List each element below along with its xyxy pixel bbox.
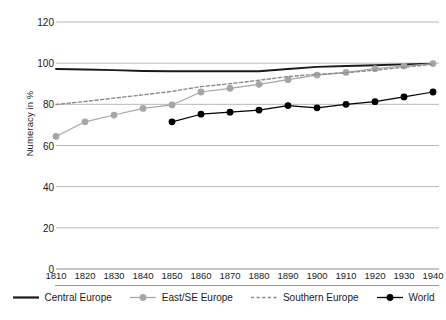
data-point-marker xyxy=(53,133,60,140)
legend-label: Central Europe xyxy=(45,292,112,303)
chart-container: Numeracy in % 020406080100120 1810182018… xyxy=(0,0,446,320)
data-point-marker xyxy=(343,101,350,108)
x-tick-label: 1900 xyxy=(306,270,327,281)
legend-item[interactable]: East/SE Europe xyxy=(129,292,233,303)
x-tick-label: 1920 xyxy=(364,270,385,281)
x-tick-label: 1820 xyxy=(74,270,95,281)
dashed-line-swatch xyxy=(250,292,278,303)
x-tick-label: 1910 xyxy=(335,270,356,281)
x-tick-label: 1860 xyxy=(190,270,211,281)
data-point-marker xyxy=(198,111,205,118)
data-point-marker xyxy=(227,109,234,116)
data-point-marker xyxy=(430,60,437,67)
x-tick-label: 1840 xyxy=(132,270,153,281)
data-point-marker xyxy=(401,94,408,101)
data-point-marker xyxy=(227,85,234,92)
legend-item[interactable]: World xyxy=(376,292,435,303)
x-tick-label: 1850 xyxy=(161,270,182,281)
data-point-marker xyxy=(198,89,205,96)
chart-legend: Central EuropeEast/SE EuropeSouthern Eur… xyxy=(0,292,446,303)
legend-item[interactable]: Central Europe xyxy=(12,292,112,303)
data-point-marker xyxy=(256,81,263,88)
x-tick-label: 1830 xyxy=(103,270,124,281)
legend-label: World xyxy=(409,292,435,303)
x-tick-label: 1890 xyxy=(277,270,298,281)
x-tick-label: 1940 xyxy=(422,270,443,281)
legend-label: East/SE Europe xyxy=(162,292,233,303)
line-marker-swatch xyxy=(376,292,404,303)
data-point-marker xyxy=(372,98,379,105)
data-point-marker xyxy=(401,63,408,70)
data-point-marker xyxy=(372,65,379,72)
legend-item[interactable]: Southern Europe xyxy=(250,292,359,303)
data-point-marker xyxy=(169,118,176,125)
series-line xyxy=(172,92,433,122)
x-tick-label: 1880 xyxy=(248,270,269,281)
solid-line-swatch xyxy=(12,292,40,303)
legend-divider xyxy=(55,285,439,286)
line-marker-swatch xyxy=(129,292,157,303)
series-layer xyxy=(53,60,437,140)
data-point-marker xyxy=(111,112,118,119)
data-point-marker xyxy=(82,118,89,125)
data-point-marker xyxy=(140,105,147,112)
data-point-marker xyxy=(285,102,292,109)
x-tick-label: 1870 xyxy=(219,270,240,281)
x-tick-label: 1810 xyxy=(45,270,66,281)
data-point-marker xyxy=(256,107,263,114)
x-tick-label: 1930 xyxy=(393,270,414,281)
data-point-marker xyxy=(169,102,176,109)
data-point-marker xyxy=(314,104,321,111)
data-point-marker xyxy=(430,89,437,96)
gridlines xyxy=(56,22,439,269)
legend-label: Southern Europe xyxy=(283,292,359,303)
